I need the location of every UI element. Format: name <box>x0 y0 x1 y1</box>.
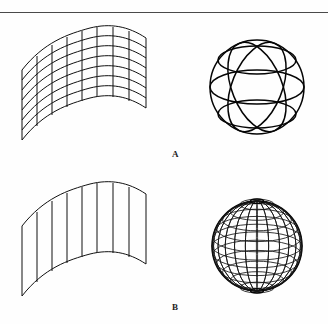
surface-u-curves <box>22 27 146 140</box>
ruled-wavy-surface <box>4 172 164 304</box>
coarse-wireframe-sphere <box>186 20 328 156</box>
surface-u-curves <box>22 183 146 296</box>
coarse-wireframe-sphere-svg <box>186 20 328 156</box>
figure-page: A <box>0 0 328 324</box>
sphere-pole-caps <box>251 199 264 293</box>
surface-v-curves <box>22 26 146 140</box>
sphere-parallels <box>210 46 304 128</box>
figure-label-b: B <box>172 302 178 312</box>
top-rule <box>0 12 328 13</box>
sphere-silhouette <box>210 40 304 134</box>
fine-wireframe-sphere-svg <box>186 182 328 310</box>
coarse-wavy-surface <box>4 16 164 148</box>
surface-boundary-curves <box>22 182 146 296</box>
fine-wireframe-sphere <box>186 182 328 310</box>
sphere-meridians <box>212 201 302 291</box>
coarse-wavy-surface-svg <box>4 16 164 148</box>
figure-label-a: A <box>172 149 179 159</box>
ruled-wavy-surface-svg <box>4 172 164 304</box>
